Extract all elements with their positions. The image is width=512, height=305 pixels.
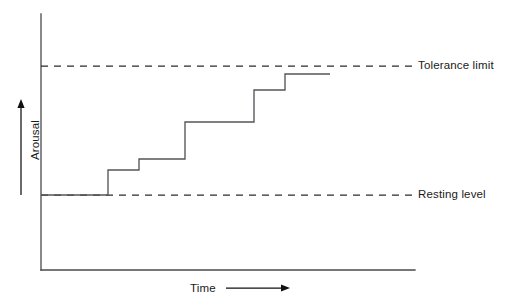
tolerance-limit-label: Tolerance limit bbox=[418, 60, 494, 72]
time-arrow-head-icon bbox=[281, 284, 290, 291]
arousal-arrow-head-icon bbox=[17, 99, 24, 108]
arousal-step-curve bbox=[41, 74, 330, 195]
y-axis-label: Arousal bbox=[30, 100, 42, 180]
x-axis-label: Time bbox=[190, 283, 216, 295]
resting-level-label: Resting level bbox=[418, 189, 486, 201]
plot-canvas bbox=[0, 0, 512, 305]
arousal-time-figure: Tolerance limit Resting level Time Arous… bbox=[0, 0, 512, 305]
